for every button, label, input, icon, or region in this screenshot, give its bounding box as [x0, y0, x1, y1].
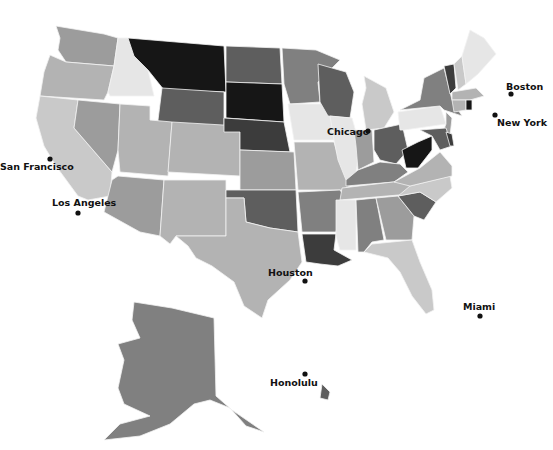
state-ri[interactable]	[466, 100, 472, 110]
city-dot-icon	[477, 313, 482, 318]
state-ks[interactable]	[240, 150, 296, 190]
states-layer	[36, 26, 496, 440]
city-label: Houston	[268, 267, 313, 278]
city-label: Chicago	[327, 126, 370, 137]
state-hi[interactable]	[320, 384, 330, 400]
state-ct[interactable]	[452, 100, 466, 112]
city-marker-miami[interactable]: Miami	[463, 301, 495, 319]
city-marker-new-york[interactable]: New York	[492, 112, 547, 128]
state-wa[interactable]	[56, 26, 118, 66]
city-dot-icon	[75, 210, 80, 215]
state-me[interactable]	[462, 30, 496, 84]
state-fl[interactable]	[364, 240, 434, 314]
city-marker-honolulu[interactable]: Honolulu	[270, 371, 318, 388]
state-ms[interactable]	[336, 200, 356, 250]
city-marker-boston[interactable]: Boston	[506, 81, 543, 97]
us-choropleth-map: San FranciscoLos AngelesHoustonChicagoBo…	[0, 0, 553, 450]
state-nm[interactable]	[160, 180, 226, 244]
city-label: San Francisco	[0, 161, 74, 172]
state-ma[interactable]	[452, 88, 484, 100]
state-mi[interactable]	[362, 76, 394, 130]
state-sd[interactable]	[226, 82, 284, 122]
city-dot-icon	[508, 91, 513, 96]
state-nd[interactable]	[226, 46, 282, 84]
city-label: Los Angeles	[52, 197, 117, 208]
city-label: New York	[497, 117, 548, 128]
city-label: Boston	[506, 81, 543, 92]
city-label: Miami	[463, 301, 495, 312]
city-dot-icon	[302, 278, 307, 283]
city-dot-icon	[302, 371, 307, 376]
city-label: Honolulu	[270, 377, 318, 388]
state-ak[interactable]	[104, 302, 264, 440]
city-marker-chicago[interactable]: Chicago	[327, 126, 371, 137]
